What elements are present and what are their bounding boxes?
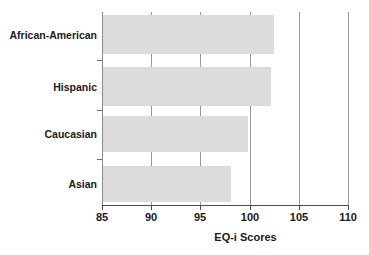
category-label-african-american: African-American [9, 29, 97, 41]
bar-hispanic[interactable] [102, 67, 271, 106]
eqi-scores-bar-chart: 85 90 95 100 105 110 African-American Hi… [0, 0, 369, 255]
category-label-asian: Asian [68, 178, 97, 190]
category-label-caucasian: Caucasian [44, 128, 97, 140]
y-tick-1 [97, 110, 102, 111]
y-axis-line [102, 12, 103, 206]
x-tick-label-105: 105 [290, 211, 308, 223]
bar-asian[interactable] [102, 166, 231, 202]
x-tick-label-100: 100 [241, 211, 259, 223]
x-axis-title-text: EQ-i Scores [214, 231, 276, 243]
x-tick-label-90: 90 [145, 211, 157, 223]
y-tick-2 [97, 159, 102, 160]
gridline-110 [348, 12, 349, 205]
x-axis-line [102, 205, 349, 206]
category-label-hispanic: Hispanic [53, 81, 97, 93]
x-tick-label-110: 110 [339, 211, 357, 223]
x-tick-90 [151, 205, 152, 210]
x-tick-95 [200, 205, 201, 210]
plot-area: 85 90 95 100 105 110 African-American Hi… [0, 0, 369, 255]
x-tick-105 [299, 205, 300, 210]
x-axis-title: EQ-i Scores [0, 231, 369, 243]
bar-african-american[interactable] [102, 15, 274, 54]
bar-caucasian[interactable] [102, 116, 248, 152]
y-tick-0 [97, 60, 102, 61]
x-tick-85 [102, 205, 103, 210]
x-tick-100 [250, 205, 251, 210]
gridline-105 [299, 12, 300, 205]
x-tick-label-95: 95 [194, 211, 206, 223]
x-tick-110 [348, 205, 349, 210]
x-tick-label-85: 85 [96, 211, 108, 223]
